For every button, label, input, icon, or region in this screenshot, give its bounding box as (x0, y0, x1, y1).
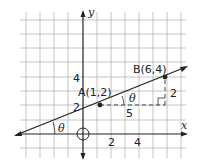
angle-arc (122, 96, 124, 105)
coordinate-diagram: y x 2 4 2 4 5 2 θ θ A(1,2) B(6,4) (0, 0, 201, 165)
y-tick-label: 4 (73, 72, 80, 85)
x-tick-label: 2 (108, 136, 115, 149)
x-axis-arrow-icon (181, 132, 188, 137)
rise-label: 2 (170, 87, 177, 100)
x-axis-label: x (181, 119, 188, 132)
y-axis-arrow-icon (81, 153, 86, 160)
angle-label: θ (58, 122, 65, 135)
right-angle-marker (158, 98, 165, 105)
angle-label: θ (129, 92, 136, 105)
y-axis-arrow-icon (81, 10, 86, 17)
point-a-label: A(1,2) (78, 86, 112, 99)
x-tick-label: 4 (134, 136, 141, 149)
line-arrow-left-icon (14, 131, 22, 136)
y-axis-label: y (87, 6, 95, 19)
point-a (98, 103, 103, 108)
run-label: 5 (126, 107, 133, 120)
grid (20, 12, 186, 158)
point-b-label: B(6,4) (133, 63, 167, 76)
